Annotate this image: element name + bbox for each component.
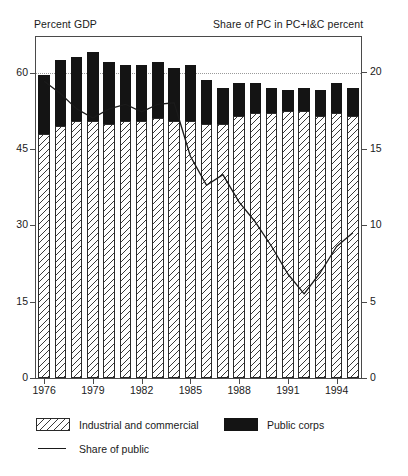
legend-item-industrial-and-commercial: Industrial and commercial [36, 418, 199, 431]
right-tick-0 [362, 378, 367, 379]
legend-label: Industrial and commercial [79, 419, 199, 431]
left-axis-label-0: 0 [2, 371, 28, 383]
left-tick-15 [30, 302, 35, 303]
legend-item-public-corps: Public corps [224, 418, 324, 431]
x-axis-label-1976: 1976 [24, 384, 64, 396]
x-axis-label-1994: 1994 [317, 384, 357, 396]
chart-figure: Percent GDP Share of PC in PC+I&C percen… [0, 0, 408, 476]
x-axis-label-1991: 1991 [268, 384, 308, 396]
left-tick-60 [30, 73, 35, 74]
plot-wrapper [35, 36, 362, 379]
left-tick-45 [30, 149, 35, 150]
legend-label: Public corps [267, 419, 324, 431]
x-axis-label-1985: 1985 [170, 384, 210, 396]
plot-area [36, 37, 361, 378]
x-axis-label-1979: 1979 [73, 384, 113, 396]
left-axis-label-15: 15 [2, 295, 28, 307]
right-axis-label-15: 15 [370, 142, 396, 154]
right-tick-10 [362, 225, 367, 226]
right-axis-label-5: 5 [370, 295, 396, 307]
right-axis-label-10: 10 [370, 218, 396, 230]
chart-legend: Industrial and commercial Public corps S… [36, 418, 376, 466]
right-axis-label-0: 0 [370, 371, 396, 383]
hatch-swatch-icon [36, 418, 70, 431]
legend-label: Share of public [79, 443, 149, 455]
legend-item-share-of-public: Share of public [36, 442, 149, 455]
left-tick-0 [30, 378, 35, 379]
right-tick-20 [362, 72, 367, 73]
share-of-public-line [36, 37, 361, 378]
left-axis-title: Percent GDP [34, 18, 97, 30]
solid-swatch-icon [224, 418, 258, 431]
left-axis-label-30: 30 [2, 218, 28, 230]
x-axis-label-1988: 1988 [219, 384, 259, 396]
right-tick-15 [362, 149, 367, 150]
right-axis-title: Share of PC in PC+I&C percent [213, 18, 363, 30]
x-axis-label-1982: 1982 [122, 384, 162, 396]
left-tick-30 [30, 225, 35, 226]
right-axis-label-20: 20 [370, 65, 396, 77]
line-swatch-icon [36, 442, 70, 455]
left-axis-label-60: 60 [2, 66, 28, 78]
left-axis-label-45: 45 [2, 142, 28, 154]
right-tick-5 [362, 302, 367, 303]
